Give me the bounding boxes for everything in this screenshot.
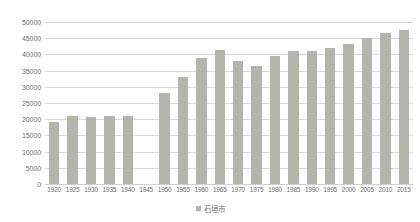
y-axis-tick-25000: 25000 (22, 100, 41, 107)
x-axis-tick-1935: 1935 (100, 186, 118, 193)
y-axis-tick-50000: 50000 (22, 19, 41, 26)
chart-legend: 石垣市 (0, 203, 420, 214)
x-axis-tick-1965: 1965 (211, 186, 229, 193)
x-axis-tick-1960: 1960 (192, 186, 210, 193)
bar-slot (303, 22, 321, 184)
bar-1935 (104, 116, 114, 184)
legend-item-label: 石垣市 (204, 203, 225, 214)
x-axis-tick-1955: 1955 (174, 186, 192, 193)
bar-1955 (178, 77, 188, 184)
y-axis-tick-10000: 10000 (22, 148, 41, 155)
x-axis-tick-1985: 1985 (284, 186, 302, 193)
bar-slot (211, 22, 229, 184)
x-axis-tick-1930: 1930 (82, 186, 100, 193)
bar-1925 (67, 116, 77, 184)
bar-2000 (343, 44, 353, 184)
plot-area (45, 22, 413, 184)
bar-slot (321, 22, 339, 184)
bar-slot (100, 22, 118, 184)
x-axis-tick-1925: 1925 (63, 186, 81, 193)
bar-slot (247, 22, 265, 184)
x-axis-tick-1975: 1975 (247, 186, 265, 193)
bar-1930 (86, 117, 96, 184)
bar-series-ishigaki (45, 22, 413, 184)
x-axis-tick-2010: 2010 (376, 186, 394, 193)
y-axis-labels: 0500010000150002000025000300003500040000… (0, 22, 41, 184)
bar-1970 (233, 61, 243, 184)
bar-1960 (196, 58, 206, 184)
legend-item-ishigaki: 石垣市 (196, 203, 225, 214)
bar-slot (358, 22, 376, 184)
x-axis-tick-1945: 1945 (137, 186, 155, 193)
bar-slot (229, 22, 247, 184)
bar-slot (192, 22, 210, 184)
x-axis-tick-1990: 1990 (303, 186, 321, 193)
x-axis-tick-1970: 1970 (229, 186, 247, 193)
bar-1965 (215, 50, 225, 184)
bar-1940 (123, 116, 133, 184)
bar-1985 (288, 51, 298, 184)
bar-1980 (270, 56, 280, 184)
y-axis-tick-40000: 40000 (22, 51, 41, 58)
x-axis-tick-2000: 2000 (339, 186, 357, 193)
bar-slot (45, 22, 63, 184)
bar-slot (63, 22, 81, 184)
bar-2015 (399, 30, 409, 184)
x-axis-tick-1980: 1980 (266, 186, 284, 193)
x-axis-tick-1950: 1950 (155, 186, 173, 193)
bar-slot (174, 22, 192, 184)
bar-slot (137, 22, 155, 184)
y-axis-tick-15000: 15000 (22, 132, 41, 139)
y-axis-tick-35000: 35000 (22, 67, 41, 74)
bar-1950 (159, 93, 169, 184)
y-axis-tick-45000: 45000 (22, 35, 41, 42)
bar-slot (284, 22, 302, 184)
bar-slot (266, 22, 284, 184)
y-axis-tick-30000: 30000 (22, 83, 41, 90)
x-axis-labels: 1920192519301935194019451950195519601965… (45, 186, 413, 198)
bar-slot (395, 22, 413, 184)
x-axis-tick-1940: 1940 (119, 186, 137, 193)
bar-2005 (362, 38, 372, 184)
bar-slot (155, 22, 173, 184)
gridline-0 (45, 184, 413, 185)
bar-slot (339, 22, 357, 184)
bar-1995 (325, 48, 335, 184)
bar-chart: 0500010000150002000025000300003500040000… (0, 0, 420, 222)
bar-slot (376, 22, 394, 184)
bar-slot (82, 22, 100, 184)
y-axis-tick-5000: 5000 (26, 164, 41, 171)
x-axis-tick-1995: 1995 (321, 186, 339, 193)
x-axis-tick-1920: 1920 (45, 186, 63, 193)
x-axis-tick-2015: 2015 (395, 186, 413, 193)
bar-2010 (380, 33, 390, 184)
y-axis-tick-0: 0 (37, 181, 41, 188)
bar-slot (119, 22, 137, 184)
y-axis-tick-20000: 20000 (22, 116, 41, 123)
legend-swatch-icon (196, 206, 201, 211)
bar-1975 (251, 66, 261, 184)
x-axis-tick-2005: 2005 (358, 186, 376, 193)
bar-1990 (307, 51, 317, 184)
bar-1920 (49, 122, 59, 184)
